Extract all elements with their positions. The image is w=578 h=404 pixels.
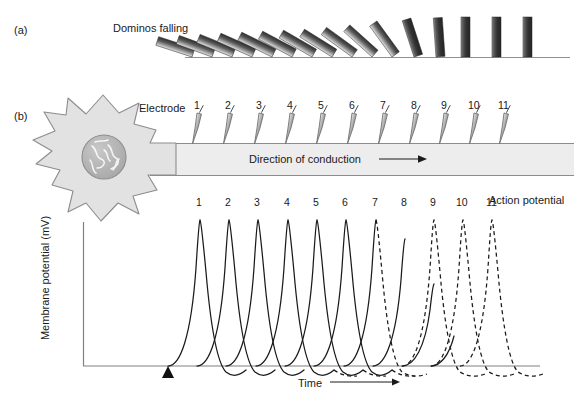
electrode-number-11: 11 xyxy=(498,99,509,111)
time-axis-label: Time xyxy=(298,377,322,389)
direction-of-conduction-label: Direction of conduction xyxy=(249,153,361,165)
ap-trace-10 xyxy=(460,220,543,376)
time-arrow xyxy=(330,378,400,385)
ap-trace-8 xyxy=(402,220,485,376)
electrode-number-7: 7 xyxy=(380,99,386,111)
panel-a-label: (a) xyxy=(14,24,27,36)
stimulus-marker xyxy=(162,366,174,378)
ap-number-10: 10 xyxy=(456,196,468,208)
domino-tile xyxy=(402,18,422,57)
ap-plot-group xyxy=(83,220,543,386)
domino-tile-upright xyxy=(492,17,501,57)
figure-root: (a) (b) Dominos falling Electrode 1 2 3 … xyxy=(0,0,578,404)
ap-trace-8-rise xyxy=(373,239,405,366)
ap-traces-dashed xyxy=(334,220,543,376)
y-axis-label: Membrane potential (mV) xyxy=(39,208,51,348)
ap-number-7: 7 xyxy=(372,196,378,208)
ap-trace-4 xyxy=(256,220,334,375)
electrode-number-2: 2 xyxy=(225,99,231,111)
ap-trace-1 xyxy=(168,220,246,375)
electrode-label: Electrode xyxy=(139,102,185,114)
ap-number-8: 8 xyxy=(401,196,407,208)
electrode-number-10: 10 xyxy=(468,99,480,111)
ap-trace-7 xyxy=(376,220,427,376)
ap-traces-solid xyxy=(168,220,454,375)
ap-number-6: 6 xyxy=(342,196,348,208)
action-potential-label: Action potential xyxy=(489,194,564,206)
dominos-falling-title: Dominos falling xyxy=(113,22,188,34)
ap-trace-9-rise xyxy=(402,284,434,366)
electrode-number-6: 6 xyxy=(349,99,355,111)
electrode-number-8: 8 xyxy=(411,99,417,111)
ap-number-4: 4 xyxy=(284,196,290,208)
ap-dash-6 xyxy=(392,370,415,376)
ap-trace-10-rise xyxy=(431,336,454,366)
ap-number-1: 1 xyxy=(196,196,202,208)
axon-band xyxy=(150,143,574,175)
electrode-number-5: 5 xyxy=(318,99,324,111)
panel-b-label: (b) xyxy=(14,110,27,122)
domino-tile-upright xyxy=(523,17,532,57)
electrode-number-1: 1 xyxy=(194,99,200,111)
ap-number-9: 9 xyxy=(430,196,436,208)
electrode-number-4: 4 xyxy=(287,99,293,111)
electrode-number-3: 3 xyxy=(256,99,262,111)
domino-tile xyxy=(433,17,445,57)
ap-trace-9 xyxy=(431,220,514,376)
electrode-number-9: 9 xyxy=(441,99,447,111)
domino-tile-upright xyxy=(461,17,470,57)
ap-number-3: 3 xyxy=(254,196,260,208)
ap-number-5: 5 xyxy=(313,196,319,208)
dominos-group xyxy=(156,17,570,58)
ap-number-2: 2 xyxy=(225,196,231,208)
